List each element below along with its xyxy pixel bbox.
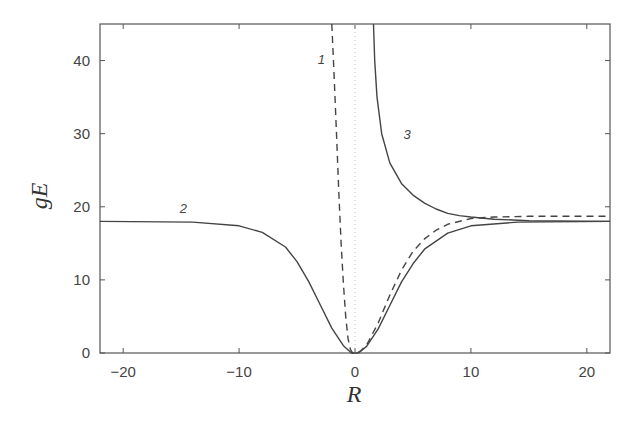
y-tick-label: 0: [82, 344, 90, 361]
curve-label-3: 3: [404, 127, 412, 142]
curve-label-2: 2: [179, 201, 188, 216]
line-chart: −20−1001020010203040 123 R gE: [0, 0, 637, 429]
curve-labels: 123: [179, 52, 412, 215]
curve-2: [100, 221, 610, 353]
y-tick-label: 20: [73, 198, 90, 215]
x-tick-label: 0: [351, 363, 359, 380]
curve-1: [332, 24, 610, 353]
x-tick-label: 20: [578, 363, 595, 380]
curve-label-1: 1: [318, 52, 325, 67]
y-tick-label: 40: [73, 52, 90, 69]
x-tick-label: −20: [110, 363, 135, 380]
x-tick-label: 10: [463, 363, 480, 380]
x-tick-label: −10: [226, 363, 251, 380]
y-axis-title: gE: [26, 182, 52, 209]
x-axis-title: R: [346, 381, 362, 407]
y-tick-label: 10: [73, 271, 90, 288]
curve-3: [374, 24, 611, 221]
y-tick-label: 30: [73, 125, 90, 142]
